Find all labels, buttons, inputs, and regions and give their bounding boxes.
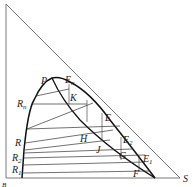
construction-lines	[69, 84, 139, 172]
label-E: E	[104, 112, 111, 123]
ternary-diagram: P En K Rn E R H E2 R2 J G E1 R1 F S B	[0, 0, 193, 187]
label-P: P	[40, 75, 47, 86]
label-E2: E2	[122, 134, 133, 147]
label-K: K	[69, 92, 78, 103]
label-H: H	[79, 133, 88, 144]
label-F: F	[132, 168, 140, 179]
label-R1: R1	[11, 164, 22, 177]
label-G: G	[119, 150, 126, 161]
label-J: J	[96, 144, 101, 155]
label-R: R	[14, 137, 21, 148]
label-S: S	[183, 173, 188, 184]
label-Rn: Rn	[16, 98, 27, 111]
label-B: B	[2, 181, 7, 187]
tie-lines	[22, 89, 150, 173]
point-labels: P En K Rn E R H E2 R2 J G E1 R1 F S B	[2, 74, 188, 187]
triangle-frame	[6, 4, 180, 178]
label-En: En	[64, 74, 75, 87]
